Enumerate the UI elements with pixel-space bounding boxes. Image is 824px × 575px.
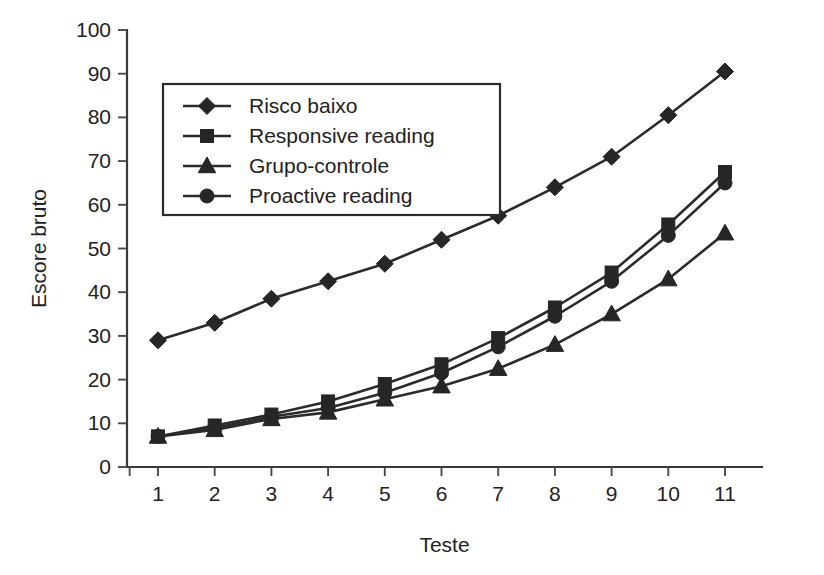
legend-marker-circle-icon [200,189,214,203]
chart-container: 01020304050607080901001234567891011 Risc… [0,0,824,575]
y-axis-tick-label: 70 [88,149,111,172]
data-point-marker [605,274,619,288]
data-point-marker [208,421,222,435]
y-axis-title: Escore bruto [27,189,50,308]
x-axis-tick-label: 9 [606,482,618,505]
data-point-marker [378,386,392,400]
x-axis-tick-label: 8 [549,482,561,505]
y-axis-tick-label: 100 [76,18,111,41]
data-point-marker [660,270,677,286]
x-axis-tick-label: 3 [266,482,278,505]
data-point-marker [491,340,505,354]
y-axis-tick-label: 10 [88,411,111,434]
x-axis-tick-label: 4 [322,482,334,505]
data-point-marker [320,273,337,290]
data-point-marker [489,360,506,376]
data-point-marker [151,429,165,443]
series-line [158,233,725,436]
x-axis-tick-label: 7 [492,482,504,505]
x-axis-title: Teste [419,533,469,556]
x-axis-tick-label: 10 [657,482,680,505]
data-point-marker [264,410,278,424]
data-point-marker [548,309,562,323]
data-point-marker [546,179,563,196]
data-point-marker [206,314,223,331]
legend-entry-label: Proactive reading [249,184,412,207]
y-axis-tick-label: 80 [88,105,111,128]
y-axis-tick-label: 60 [88,193,111,216]
legend-layer: Risco baixoResponsive readingGrupo-contr… [163,84,500,215]
data-point-marker [435,366,449,380]
y-axis-tick-label: 50 [88,237,111,260]
x-axis-tick-label: 2 [209,482,221,505]
data-point-marker [603,305,620,321]
x-axis-tick-label: 1 [152,482,164,505]
y-axis-tick-label: 30 [88,324,111,347]
x-axis-tick-label: 6 [436,482,448,505]
legend-entry-label: Grupo-controle [249,154,389,177]
data-point-marker [433,231,450,248]
x-axis-tick-label: 11 [714,482,736,505]
legend-entry-label: Responsive reading [249,124,435,147]
data-point-marker [321,401,335,415]
data-point-marker [263,290,280,307]
data-point-marker [150,332,167,349]
data-point-marker [661,228,675,242]
legend-marker-square-icon [201,130,214,143]
y-axis-tick-label: 90 [88,62,111,85]
data-point-marker [376,255,393,272]
chart-series [149,224,733,443]
data-point-marker [718,176,732,190]
y-axis-tick-label: 0 [99,455,111,478]
data-point-marker [716,224,733,240]
x-axis-tick-label: 5 [379,482,391,505]
y-axis-tick-label: 40 [88,280,111,303]
legend-entry-label: Risco baixo [249,94,358,117]
y-axis-tick-label: 20 [88,368,111,391]
data-point-marker [546,336,563,352]
line-chart: 01020304050607080901001234567891011 Risc… [0,0,824,575]
